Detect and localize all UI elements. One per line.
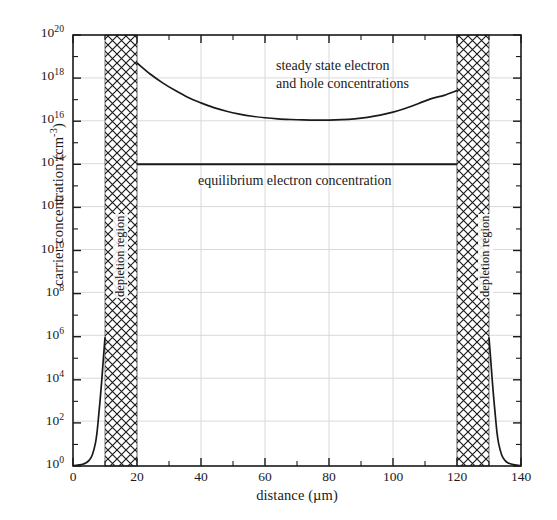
x-axis-label: distance (µm)	[73, 487, 521, 504]
y-tick-label-exponent: 4	[59, 367, 64, 378]
plot-background	[73, 35, 521, 466]
y-axis-label-text: carrier concentration (cm	[50, 137, 66, 286]
y-tick-label-base: 10	[46, 456, 60, 471]
x-tick-label: 140	[501, 470, 541, 484]
steady-state-annotation: steady state electron and hole concentra…	[276, 57, 409, 93]
x-tick-label: 20	[117, 470, 157, 484]
y-axis-label-exponent: -3	[48, 128, 59, 137]
y-tick-label: 104	[0, 371, 64, 385]
depletion-region-right-label: depletion region	[478, 214, 493, 298]
y-tick-label-exponent: 20	[54, 23, 64, 34]
depletion-region-left-label: depletion region	[113, 214, 128, 298]
y-tick-label-base: 10	[46, 370, 60, 385]
y-tick-label: 1020	[0, 26, 64, 40]
x-tick-label: 60	[245, 470, 285, 484]
y-tick-label: 100	[0, 457, 64, 471]
equilibrium-annotation: equilibrium electron concentration	[198, 172, 392, 190]
chart-figure: 100102104106108101010121014101610181020 …	[0, 0, 557, 520]
y-tick-label-exponent: 2	[59, 410, 64, 421]
x-tick-label: 80	[309, 470, 349, 484]
y-tick-label-base: 10	[46, 413, 60, 428]
x-tick-label: 120	[437, 470, 477, 484]
y-axis-label: carrier concentration (cm-3)	[50, 55, 67, 355]
y-tick-label-base: 10	[41, 25, 55, 40]
y-axis-label-suffix: )	[50, 123, 66, 128]
y-tick-label: 102	[0, 414, 64, 428]
y-tick-label-exponent: 0	[59, 454, 64, 465]
x-tick-label: 100	[373, 470, 413, 484]
x-tick-label: 0	[53, 470, 93, 484]
x-tick-label: 40	[181, 470, 221, 484]
